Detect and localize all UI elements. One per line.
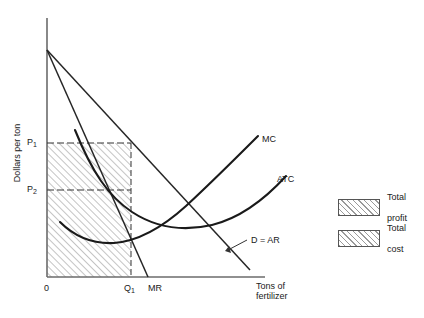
total-profit-region [47, 143, 131, 190]
dar-leader-line [228, 240, 247, 250]
p2-axis-label: P2 [27, 184, 37, 194]
total-cost-swatch [338, 230, 380, 247]
origin-label: 0 [44, 283, 49, 293]
atc-curve-label: ATC [277, 174, 294, 184]
y-axis-label: Dollars per ton [12, 113, 22, 193]
p1-axis-label: P1 [27, 137, 37, 147]
x-axis-label: Tons of fertilizer [256, 281, 288, 302]
total-cost-region [47, 190, 131, 277]
q1-axis-label: Q1 [124, 283, 135, 293]
economics-diagram: Dollars per ton P1 P2 0 Q1 MR MC ATC D =… [0, 0, 424, 318]
x-axis-label-line2: fertilizer [256, 291, 288, 301]
chart-canvas [0, 0, 424, 318]
legend-item-total-cost: Total cost [338, 212, 406, 266]
demand-ar-label: D = AR [251, 235, 280, 245]
total-profit-legend-line1: Total [387, 192, 407, 203]
mc-curve-label: MC [262, 134, 276, 144]
total-cost-legend-line2: cost [387, 244, 406, 255]
total-cost-legend-text: Total cost [387, 212, 406, 266]
mr-curve-label: MR [148, 283, 162, 293]
x-axis-label-line1: Tons of [256, 281, 288, 291]
total-cost-legend-line1: Total [387, 223, 406, 234]
